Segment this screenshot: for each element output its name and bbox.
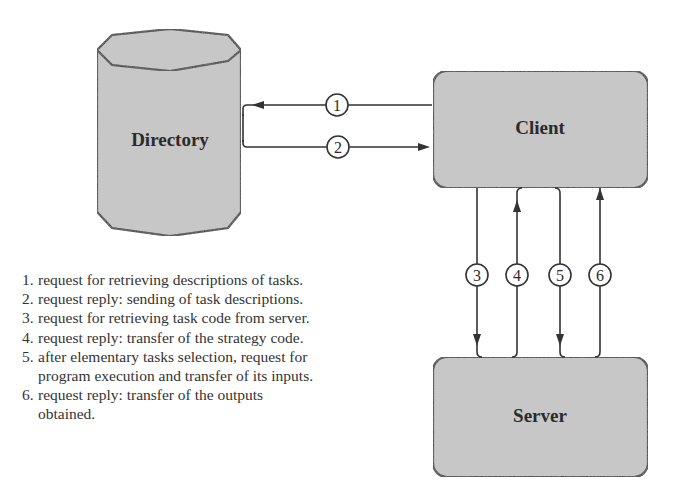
legend-item: 1. request for retrieving descriptions o… [22,270,442,289]
server-node: Server [433,357,648,477]
legend-item-number: 2. [22,289,38,308]
edge-3-step-number: 3 [473,267,481,284]
edge-5: 5 [549,188,571,357]
edge-5-step-number: 5 [556,267,564,284]
edge-6-arrowhead-icon [596,188,604,200]
edge-6: 6 [589,188,611,357]
legend-item: 5. after elementary tasks selection, req… [22,347,362,385]
legend-item: 4. request reply: transfer of the strate… [22,328,442,347]
legend-item-text: request for retrieving task code from se… [38,308,442,327]
legend-item: 6. request reply: transfer of the output… [22,385,302,423]
edge-6-step-number: 6 [596,267,604,284]
legend-item: 3. request for retrieving task code from… [22,308,442,327]
legend-item-text: request reply: sending of task descripti… [38,289,442,308]
legend-item-number: 5. [22,347,38,385]
edge-3: 3 [466,188,488,357]
edge-1: 1 [243,94,432,116]
legend-item-number: 6. [22,385,38,423]
edge-4-step-number: 4 [513,267,521,284]
edge-2-arrowhead-icon [418,143,430,151]
legend-item-text: request reply: transfer of the outputs o… [38,385,302,423]
directory-label: Directory [131,129,209,150]
legend-item-text: request for retrieving descriptions of t… [38,270,442,289]
edge-1-arrowhead-icon [252,101,264,109]
legend-item-text: after elementary tasks selection, reques… [38,347,362,385]
client-node: Client [433,71,648,188]
legend-item-number: 4. [22,328,38,347]
server-label: Server [513,405,567,426]
edge-1-step-number: 1 [333,97,341,114]
directory-node: Directory [97,29,241,236]
edge-4-arrowhead-icon [513,200,521,212]
client-label: Client [515,117,565,138]
legend-item: 2. request reply: sending of task descri… [22,289,442,308]
edge-4: 4 [506,188,528,357]
legend-item-text: request reply: transfer of the strategy … [38,328,442,347]
edge-2-step-number: 2 [334,139,342,156]
legend-item-number: 3. [22,308,38,327]
step-legend: 1. request for retrieving descriptions o… [22,270,442,424]
edge-5-arrowhead-icon [556,334,564,346]
edge-3-arrowhead-icon [473,334,481,346]
legend-item-number: 1. [22,270,38,289]
client-server-directory-diagram: Directory Client Server 1 2 3 4 [0,0,683,501]
edge-2: 2 [243,136,430,158]
